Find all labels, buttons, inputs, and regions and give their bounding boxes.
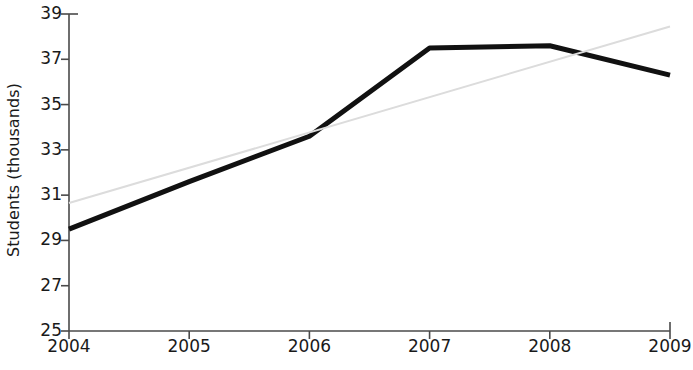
line-chart: Students (thousands) 2527293133353739 20… [0,0,693,370]
series-line-students [69,46,670,229]
data-series [69,26,670,229]
plot-area [0,0,693,370]
axes [61,14,670,339]
series-line-trend [69,26,670,203]
